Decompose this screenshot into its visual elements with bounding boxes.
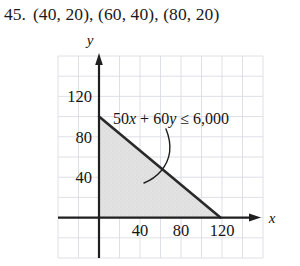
x-axis-label: x xyxy=(268,210,276,226)
inequality-plus: + xyxy=(140,110,149,127)
problem-number: 45. xyxy=(4,4,26,24)
x-axis-arrowhead xyxy=(249,214,261,222)
inequality-var-x: x xyxy=(128,110,136,127)
x-tick-label-120: 120 xyxy=(210,221,235,240)
inequality-coef-x: 50 xyxy=(113,110,129,127)
inequality-var-y: y xyxy=(167,110,177,128)
y-tick-label-80: 80 xyxy=(76,128,93,147)
problem-header: 45.(40, 20), (60, 40), (80, 20) xyxy=(4,3,300,25)
x-tick-label-40: 40 xyxy=(132,221,149,240)
problem-points-list: (40, 20), (60, 40), (80, 20) xyxy=(33,4,220,24)
x-tick-label-80: 80 xyxy=(173,221,190,240)
y-axis-label: y xyxy=(85,32,94,48)
y-tick-label-120: 120 xyxy=(67,87,92,106)
inequality-graph-figure: y x 120 80 40 40 80 120 50x+60y≤6,000 xyxy=(0,26,300,266)
inequality-label: 50x+60y≤6,000 xyxy=(113,110,229,128)
y-tick-label-40: 40 xyxy=(76,168,93,187)
inequality-constant: 6,000 xyxy=(193,110,229,127)
inequality-coef-y: 60 xyxy=(153,110,169,127)
inequality-relation: ≤ xyxy=(180,110,189,127)
graph-canvas: y x 120 80 40 40 80 120 50x+60y≤6,000 xyxy=(0,26,300,266)
y-axis-arrowhead xyxy=(95,53,103,65)
